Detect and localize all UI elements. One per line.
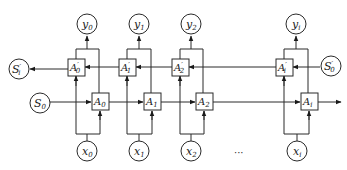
state-s-i-layer [0,0,347,170]
